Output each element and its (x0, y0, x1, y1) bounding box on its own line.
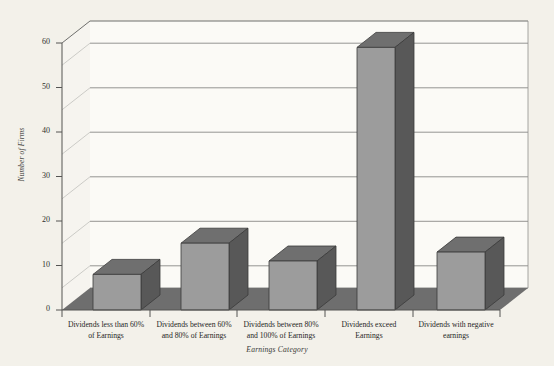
y-tick-label-50: 50 (24, 82, 50, 91)
x-category-label-5-line1: Dividends with negative (406, 320, 506, 331)
y-tick-label-0: 0 (24, 304, 50, 313)
y-axis-ticks (56, 43, 62, 310)
x-category-label-5: Dividends with negative earnings (406, 320, 506, 341)
x-category-label-2-line2: and 80% of Earnings (144, 331, 244, 342)
x-category-label-3-line2: and 100% of Earnings (231, 331, 331, 342)
bar-4 (357, 32, 414, 310)
bar-5 (437, 237, 504, 310)
x-category-label-4-line1: Dividends exceed (319, 320, 419, 331)
plot-left-wall (62, 21, 90, 310)
x-category-label-4: Dividends exceed Earnings (319, 320, 419, 341)
x-axis-title: Earnings Category (0, 345, 554, 354)
x-category-label-2-line1: Dividends between 60% (144, 320, 244, 331)
chart-canvas: 0 10 20 30 40 50 60 Number of Firms Divi… (0, 0, 554, 366)
x-category-label-4-line2: Earnings (319, 331, 419, 342)
x-category-label-1: Dividends less than 60% of Earnings (56, 320, 156, 341)
x-axis-ticks (62, 310, 500, 317)
x-category-label-3-line1: Dividends between 80% (231, 320, 331, 331)
x-category-label-3: Dividends between 80% and 100% of Earnin… (231, 320, 331, 341)
y-tick-label-60: 60 (24, 37, 50, 46)
x-category-label-1-line2: of Earnings (56, 331, 156, 342)
y-tick-label-10: 10 (24, 260, 50, 269)
bar-1 (93, 259, 160, 310)
x-category-label-5-line2: earnings (406, 331, 506, 342)
x-category-label-2: Dividends between 60% and 80% of Earning… (144, 320, 244, 341)
x-category-label-1-line1: Dividends less than 60% (56, 320, 156, 331)
bar-chart-3d (0, 0, 554, 366)
bar-3 (269, 246, 336, 310)
y-axis-title: Number of Firms (17, 100, 26, 210)
y-tick-label-20: 20 (24, 215, 50, 224)
bar-2 (181, 228, 248, 310)
y-tick-label-40: 40 (24, 126, 50, 135)
y-tick-label-30: 30 (24, 171, 50, 180)
